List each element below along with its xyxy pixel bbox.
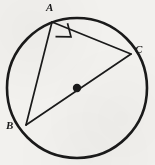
vertex-label-b: B	[6, 120, 13, 131]
geometry-figure: A B C	[0, 0, 155, 165]
vertex-label-c: C	[135, 44, 142, 55]
vertex-label-a: A	[46, 2, 53, 13]
geometry-canvas	[0, 0, 155, 165]
segment-ac	[52, 22, 131, 54]
center-point-dot	[73, 84, 81, 92]
